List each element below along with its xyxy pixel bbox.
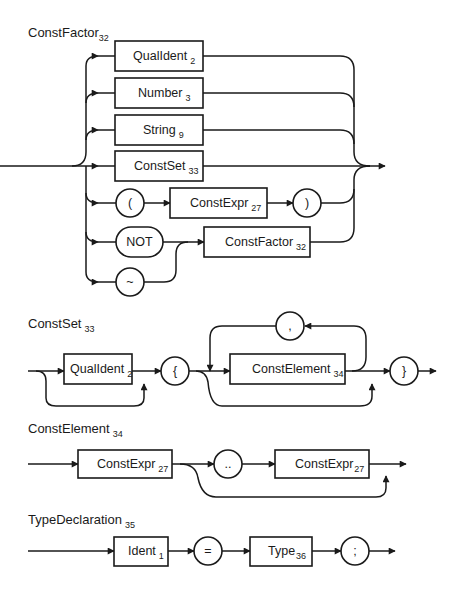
- terminal-rbrace: }: [390, 357, 418, 385]
- nonterminal-constexpr-start: ConstExpr27: [78, 450, 172, 478]
- nonterminal-constfactor: ConstFactor32: [204, 227, 310, 257]
- nonterminal-number: Number3: [115, 78, 203, 108]
- production-typedeclaration: TypeDeclaration35 Ident1 = Type36 ;: [28, 512, 395, 566]
- svg-text:..: ..: [225, 457, 232, 471]
- terminal-lbrace: {: [161, 357, 189, 385]
- production-constelement: ConstElement34 ConstExpr27 .. ConstExpr2…: [28, 421, 406, 497]
- syntax-diagram-canvas: ConstFactor32 QualIdent2 Number3: [0, 0, 454, 590]
- nonterminal-string: String9: [115, 115, 203, 145]
- svg-text:~: ~: [126, 275, 133, 289]
- terminal-rparen: ): [293, 189, 321, 217]
- terminal-lparen: (: [116, 189, 144, 217]
- entry-line: [0, 56, 98, 166]
- nonterminal-qualident: QualIdent2: [115, 41, 203, 71]
- nonterminal-qualident: QualIdent2: [64, 354, 132, 384]
- svg-text:=: =: [204, 544, 211, 558]
- nonterminal-constexpr: ConstExpr27: [170, 188, 267, 218]
- svg-text:,: ,: [288, 319, 291, 333]
- nonterminal-ident: Ident1: [114, 537, 168, 566]
- production-constset: ConstSet33 QualIdent2 { , ConstElement34: [28, 312, 436, 406]
- production-title-constfactor: ConstFactor32: [28, 25, 109, 43]
- nonterminal-constset: ConstSet33: [115, 151, 203, 181]
- terminal-not: NOT: [116, 227, 163, 257]
- production-title-constset: ConstSet33: [28, 316, 95, 334]
- nonterminal-constexpr-end: ConstExpr27: [275, 450, 369, 478]
- svg-text:}: }: [402, 364, 406, 378]
- production-title-typedeclaration: TypeDeclaration35: [28, 512, 135, 530]
- nonterminal-constelement: ConstElement34: [230, 354, 345, 384]
- svg-text:;: ;: [353, 544, 356, 558]
- svg-text:): ): [305, 196, 309, 210]
- production-title-constelement: ConstElement34: [28, 421, 123, 439]
- terminal-semicolon: ;: [341, 537, 369, 565]
- terminal-range-dots: ..: [214, 450, 242, 478]
- terminal-comma: ,: [276, 312, 304, 340]
- nonterminal-type: Type36: [250, 537, 312, 566]
- terminal-tilde: ~: [116, 268, 144, 296]
- svg-text:{: {: [173, 364, 177, 378]
- terminal-equals: =: [194, 537, 222, 565]
- production-constfactor: ConstFactor32 QualIdent2 Number3: [0, 25, 385, 296]
- svg-text:NOT: NOT: [126, 235, 153, 249]
